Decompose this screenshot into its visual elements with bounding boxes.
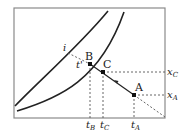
point-a-label: A [134, 81, 144, 94]
point-c-label: C [103, 58, 111, 71]
tb-label: tB [86, 119, 95, 132]
point-b-label: B [85, 50, 93, 63]
xc-label: xC [167, 66, 179, 79]
process-diagram: B C A i t' xC xA tB tC tA [0, 0, 186, 138]
ta-label: tA [131, 119, 140, 132]
tc-label: tC [100, 119, 110, 132]
process-line-b-to-a [90, 64, 134, 95]
t-prime-label: t' [76, 59, 83, 70]
xa-label: xA [167, 89, 178, 102]
dashed-extension-a [134, 95, 165, 117]
upper-curve [15, 11, 108, 106]
i-label: i [63, 42, 66, 53]
